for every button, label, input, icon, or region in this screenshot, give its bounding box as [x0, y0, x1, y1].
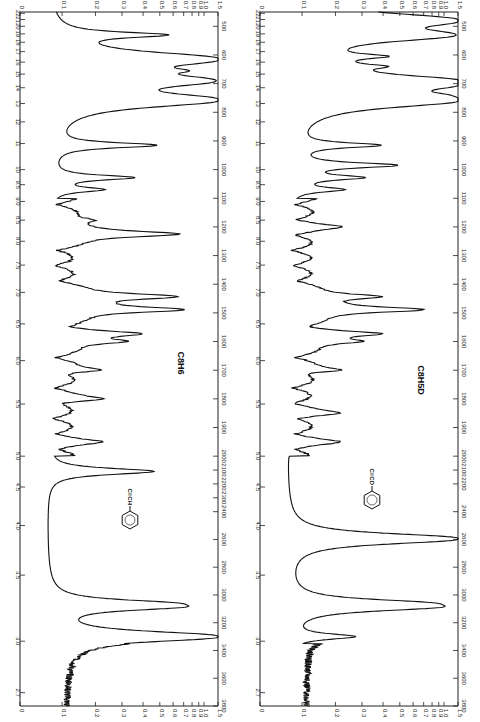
wavenumber-tick-label: 1800 — [461, 392, 467, 406]
micron-tick-label: 17 — [15, 48, 21, 55]
micron-tick-label: 2.7 — [255, 688, 261, 697]
absorbance-tick-label: 0.3 — [361, 709, 367, 718]
absorbance-tick-label: 0.3 — [121, 1, 127, 10]
wavenumber-tick-label: 2200 — [221, 477, 227, 491]
wavenumber-tick-label: 1700 — [461, 364, 467, 378]
micron-tick-label: 4.5 — [255, 483, 261, 492]
micron-tick-label: 6.0 — [15, 356, 21, 365]
wavenumber-tick-label: 1300 — [461, 249, 467, 263]
wavenumber-tick-label: 3600 — [461, 672, 467, 686]
micron-tick-label: 13 — [255, 100, 261, 107]
micron-tick-label: 3.5 — [15, 571, 21, 580]
micron-tick-label: 6.5 — [15, 320, 21, 329]
micron-tick-label: 4.5 — [15, 483, 21, 492]
absorbance-tick-label: 0.6 — [412, 709, 418, 718]
micron-tick-label: 7.5 — [255, 261, 261, 270]
absorbance-tick-label: 0.5 — [159, 1, 165, 10]
wavenumber-tick-label: 1100 — [221, 192, 227, 206]
micron-tick-label: 14 — [15, 84, 21, 91]
wavenumber-tick-label: 1200 — [461, 220, 467, 234]
spectrum-panel-c8h5d: 5006007008009001000110012001300140015001… — [240, 0, 480, 722]
absorbance-tick-label: 0.8 — [191, 1, 197, 10]
wavenumber-tick-label: 500 — [461, 21, 467, 32]
wavenumber-tick-label: 700 — [461, 79, 467, 90]
wavenumber-tick-label: 2600 — [221, 533, 227, 547]
wavenumber-tick-label: 3400 — [461, 644, 467, 658]
absorbance-tick-label: 0.5 — [399, 1, 405, 10]
micron-tick-label: 11 — [255, 140, 261, 147]
absorbance-tick-label: 0.4 — [382, 709, 388, 718]
wavenumber-tick-label: 2600 — [461, 533, 467, 547]
wavenumber-tick-label: 2100 — [461, 463, 467, 477]
micron-tick-label: 3.0 — [15, 637, 21, 646]
ir-spectrum-plot: 5006007008009001000110012001300140015001… — [0, 0, 240, 722]
wavenumber-tick-label: 1500 — [221, 306, 227, 320]
wavenumber-tick-label: 1300 — [221, 249, 227, 263]
wavenumber-tick-label: 600 — [221, 50, 227, 61]
micron-tick-label: 3.5 — [255, 571, 261, 580]
micron-tick-label: 8.5 — [255, 216, 261, 225]
formula-label-c8h6: C8H6 — [176, 351, 186, 374]
absorbance-tick-label: 0.1 — [61, 1, 67, 10]
absorbance-tick-label: 1.0 — [443, 709, 449, 718]
wavenumber-tick-label: 800 — [461, 107, 467, 118]
absorbance-tick-label: 0.1 — [301, 709, 307, 718]
wavenumber-tick-label: 800 — [221, 107, 227, 118]
wavenumber-tick-label: 500 — [221, 21, 227, 32]
wavenumber-tick-label: 3000 — [221, 588, 227, 602]
absorbance-tick-label: 0.1 — [301, 1, 307, 10]
absorbance-tick-label: 0.2 — [94, 1, 100, 10]
phenylacetylene-structure: C≡CH — [122, 489, 138, 530]
wavenumber-tick-label: 600 — [461, 50, 467, 61]
micron-tick-label: 15 — [15, 71, 21, 78]
spectrum-panel-c8h6: 5006007008009001000110012001300140015001… — [0, 0, 240, 722]
wavenumber-tick-label: 1900 — [221, 421, 227, 435]
wavenumber-tick-label: 2000 — [221, 449, 227, 463]
micron-tick-label: 6.5 — [255, 320, 261, 329]
wavenumber-tick-label: 2300 — [221, 491, 227, 505]
absorbance-tick-label: 0.8 — [431, 1, 437, 10]
absorbance-tick-label: 0.4 — [382, 1, 388, 10]
micron-tick-label: 12 — [255, 119, 261, 126]
absorbance-tick-label: 0.5 — [159, 709, 165, 718]
wavenumber-tick-label: 1900 — [461, 421, 467, 435]
micron-tick-label: 16 — [255, 59, 261, 66]
micron-tick-label: 5.5 — [15, 400, 21, 409]
micron-tick-label: 4.0 — [255, 521, 261, 530]
micron-tick-label: 9.0 — [15, 197, 21, 206]
aromatic-circle-icon — [125, 515, 135, 525]
absorbance-tick-label: 1.5 — [217, 709, 223, 718]
micron-tick-label: 8.0 — [15, 237, 21, 246]
absorbance-tick-label: 0 — [259, 709, 265, 713]
micron-tick-label: 6.0 — [255, 356, 261, 365]
wavenumber-tick-label: 1100 — [461, 192, 467, 206]
substituent-label: C≡CD — [369, 469, 375, 486]
absorbance-tick-label: 0.9 — [438, 709, 444, 718]
wavenumber-tick-label: 2400 — [461, 505, 467, 519]
absorbance-tick-label: 1.5 — [217, 1, 223, 10]
micron-tick-label: 18 — [15, 39, 21, 46]
wavenumber-tick-label: 1600 — [461, 335, 467, 349]
micron-tick-label: 4.0 — [15, 521, 21, 530]
absorbance-tick-label: 0.4 — [142, 709, 148, 718]
absorbance-tick-label: 1.0 — [203, 1, 209, 10]
absorbance-tick-label: 0.6 — [172, 709, 178, 718]
micron-tick-label: 17 — [255, 48, 261, 55]
micron-tick-label: 20 — [255, 23, 261, 30]
absorbance-tick-label: 0.6 — [172, 1, 178, 10]
micron-tick-label: 12 — [15, 119, 21, 126]
micron-tick-label: 10 — [15, 166, 21, 173]
wavenumber-tick-label: 1800 — [221, 392, 227, 406]
absorbance-tick-label: 0.7 — [423, 1, 429, 10]
absorbance-tick-label: 0.8 — [191, 709, 197, 718]
micron-tick-label: 22 — [255, 10, 261, 17]
micron-tick-label: 10 — [255, 166, 261, 173]
micron-tick-label: 9.5 — [255, 181, 261, 190]
wavenumber-tick-label: 1200 — [221, 220, 227, 234]
absorbance-tick-label: 1.5 — [457, 1, 463, 10]
absorbance-tick-label: 0.5 — [399, 709, 405, 718]
absorbance-tick-label: 0.4 — [142, 1, 148, 10]
wavenumber-tick-label: 900 — [461, 136, 467, 147]
wavenumber-tick-label: 2200 — [461, 477, 467, 491]
wavenumber-tick-label: 900 — [221, 136, 227, 147]
